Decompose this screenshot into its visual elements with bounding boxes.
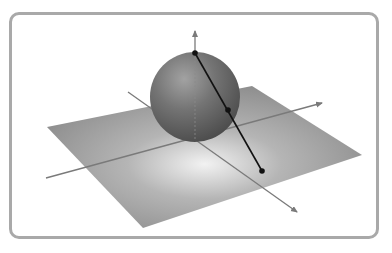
plane-projection-point (259, 168, 265, 174)
sphere-intersection-point (225, 107, 231, 113)
stereographic-projection-diagram (0, 0, 392, 253)
north-pole-point (192, 50, 198, 56)
